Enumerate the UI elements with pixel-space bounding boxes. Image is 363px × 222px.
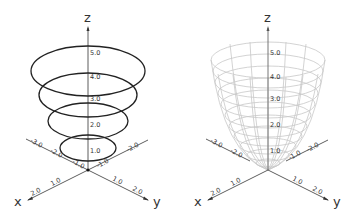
z-axis-label: z xyxy=(84,10,91,25)
z-arrow-icon xyxy=(87,26,90,31)
x-tick: -2.0 xyxy=(49,147,64,160)
right-plot: z x y 1.0 2.0 3.0 4.0 5.0 -2.0 -3.0 1.0 … xyxy=(194,10,341,209)
y-tick: 2.0 xyxy=(131,185,144,197)
z-tick: 4.0 xyxy=(90,73,100,81)
x-axis-label: x xyxy=(14,194,22,209)
diagram-canvas: z x y 1.0 2.0 3.0 4.0 5.0 -1.0 -2.0 -3.0… xyxy=(0,0,363,222)
x-tick: -3.0 xyxy=(209,137,224,150)
x-tick: 2.0 xyxy=(209,186,222,198)
z-arrow-icon xyxy=(267,26,270,31)
z-tick: 1.0 xyxy=(270,147,280,155)
z-tick: 2.0 xyxy=(270,121,280,129)
y-tick: 1.0 xyxy=(291,175,304,187)
x-tick: 1.0 xyxy=(49,176,62,188)
y-tick: -2.0 xyxy=(305,141,320,154)
z-tick: 5.0 xyxy=(90,49,100,57)
y-arrow-icon xyxy=(143,197,149,201)
y-axis-label: y xyxy=(153,194,161,209)
z-tick: 4.0 xyxy=(270,73,280,81)
x-tick: 2.0 xyxy=(29,186,42,198)
y-tick: -1.0 xyxy=(95,157,110,170)
y-tick: 1.0 xyxy=(111,175,124,187)
x-tick: -1.0 xyxy=(71,158,86,171)
y-axis-label: y xyxy=(333,194,341,209)
y-arrow-icon xyxy=(323,197,329,201)
z-tick: 5.0 xyxy=(270,49,280,57)
z-tick: 3.0 xyxy=(90,95,100,103)
x-axis-label: x xyxy=(194,194,202,209)
y-tick: 2.0 xyxy=(311,185,324,197)
y-tick: -2.0 xyxy=(125,141,140,154)
left-plot: z x y 1.0 2.0 3.0 4.0 5.0 -1.0 -2.0 -3.0… xyxy=(14,10,161,209)
origin-point xyxy=(86,168,89,171)
x-tick: 1.0 xyxy=(229,176,242,188)
z-tick: 1.0 xyxy=(90,147,100,155)
z-axis-label: z xyxy=(264,10,271,25)
x-tick: -3.0 xyxy=(29,137,44,150)
z-tick: 2.0 xyxy=(90,121,100,129)
z-tick: 3.0 xyxy=(270,95,280,103)
